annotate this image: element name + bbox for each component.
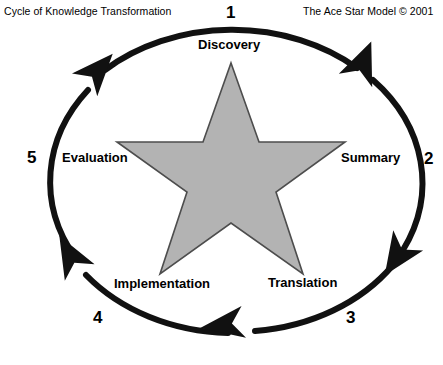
arc-segment-2 xyxy=(373,80,422,250)
cycle-diagram-graphic xyxy=(0,0,443,365)
stage-number-1: 1 xyxy=(226,4,235,21)
arrowhead-to-implementation xyxy=(198,306,246,344)
stage-number-5: 5 xyxy=(27,149,36,166)
stage-label-discovery: Discovery xyxy=(198,38,260,51)
stage-number-3: 3 xyxy=(346,309,355,326)
stage-label-evaluation: Evaluation xyxy=(62,151,128,164)
arc-segment-5 xyxy=(50,90,88,257)
stage-number-4: 4 xyxy=(93,309,102,326)
diagram-canvas: Cycle of Knowledge Transformation The Ac… xyxy=(0,0,443,365)
arrowhead-to-discovery xyxy=(72,42,125,96)
stage-label-translation: Translation xyxy=(268,276,337,289)
five-point-star xyxy=(117,63,345,274)
stage-label-implementation: Implementation xyxy=(114,277,210,290)
caption-right: The Ace Star Model © 2001 xyxy=(303,6,433,17)
stage-number-2: 2 xyxy=(424,150,433,167)
caption-left: Cycle of Knowledge Transformation xyxy=(4,6,171,17)
stage-label-summary: Summary xyxy=(341,151,400,164)
